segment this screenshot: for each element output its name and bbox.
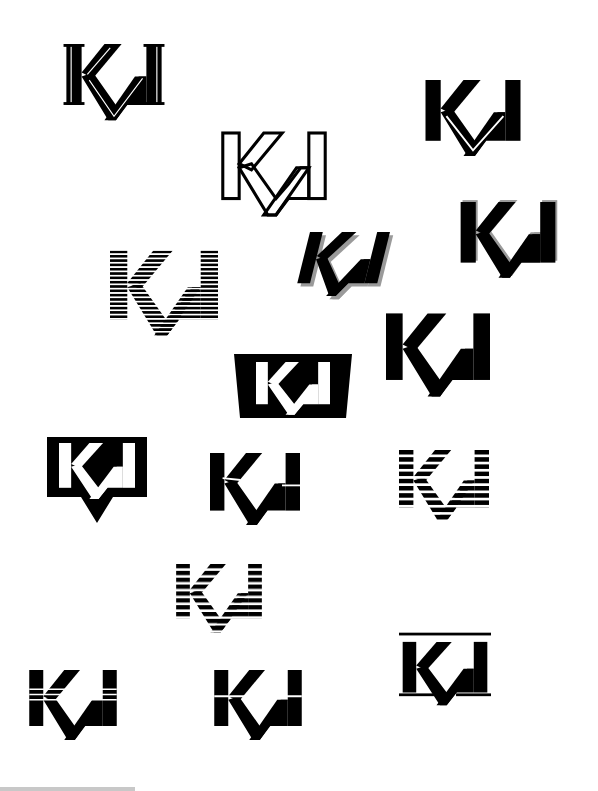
logo-rule-lines: KVH [399,632,491,718]
logo-center-gap: KVH [213,670,303,740]
scan-edge-bar [0,787,135,791]
logo-split-notch: KVH [210,453,300,525]
logo-horizontal-stripes-bold: KVH [399,450,489,522]
logo-bold-inline-v: KVH [425,80,521,156]
logo-reversed-shield-badge: KVH [47,437,147,523]
logo-italic-drop-shadow: KVH [290,232,394,296]
logo-center-band-stripes: KVH [28,670,118,740]
logo-outline: KVH [222,133,326,217]
logo-solid-bold: KVH [386,313,490,397]
logo-reversed-trapezoid-badge: KVH [232,352,354,420]
logo-horizontal-stripes-serif: KVH [110,250,218,342]
logo-bevel-shadow: KVH [447,202,569,274]
logo-horizontal-stripes-light: KVH [176,564,262,636]
logo-serif-inline: KVH [66,44,162,124]
